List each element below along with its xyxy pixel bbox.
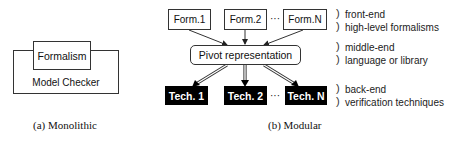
- brace-icon: ): [336, 20, 340, 32]
- technique-ellipsis: ···: [270, 90, 280, 101]
- layer-back-end: back-end verification techniques: [345, 83, 444, 109]
- brace-icon: ): [336, 7, 340, 19]
- technique-1-label: Tech. 1: [169, 90, 204, 102]
- layer-front-end: front-end high-level formalisms: [345, 8, 439, 34]
- technique-n-box: Tech. N: [285, 86, 327, 105]
- brace-icon: ): [336, 53, 340, 65]
- formalism-2-label: Form.2: [230, 14, 262, 25]
- formalism-1-label: Form.1: [174, 14, 206, 25]
- formalism-ellipsis: ···: [270, 13, 280, 24]
- layer-desc: verification techniques: [345, 96, 444, 109]
- layer-middle-end: middle-end language or library: [345, 41, 428, 67]
- layer-title: middle-end: [345, 41, 428, 54]
- caption-modular: (b) Modular: [268, 119, 321, 131]
- technique-2-label: Tech. 2: [228, 90, 263, 102]
- technique-n-label: Tech. N: [287, 90, 324, 102]
- brace-icon: ): [336, 40, 340, 52]
- formalism-1-box: Form.1: [168, 9, 211, 30]
- brace-icon: ): [336, 95, 340, 107]
- formalism-n-label: Form.N: [288, 14, 321, 25]
- layer-title: back-end: [345, 83, 444, 96]
- technique-2-box: Tech. 2: [224, 86, 267, 105]
- brace-icon: ): [336, 82, 340, 94]
- formalism-n-box: Form.N: [283, 9, 327, 30]
- layer-title: front-end: [345, 8, 439, 21]
- pivot-representation-box: Pivot representation: [190, 45, 301, 65]
- formalism-2-box: Form.2: [224, 9, 267, 30]
- technique-1-box: Tech. 1: [165, 86, 208, 105]
- layer-desc: high-level formalisms: [345, 21, 439, 34]
- pivot-label: Pivot representation: [199, 49, 292, 61]
- layer-desc: language or library: [345, 54, 428, 67]
